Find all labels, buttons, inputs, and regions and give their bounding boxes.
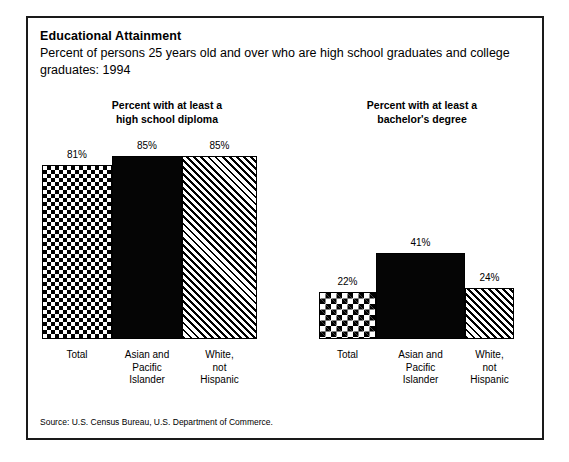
page-title: Educational Attainment (40, 28, 520, 45)
category-label-line: Hispanic (182, 374, 257, 387)
category-label-ba-white-not-hispanic: White, not Hispanic (465, 349, 514, 387)
value-label-hs-asian-pacific-islander: 85% (112, 140, 182, 152)
figure-subtitle: Percent of persons 25 years old and over… (40, 45, 520, 79)
bar-ba-total (319, 292, 376, 339)
category-label-line: Asian and (112, 349, 182, 362)
chart-panel-high-school: Percent with at least a high school dipl… (28, 98, 308, 126)
chart-title-high-school: Percent with at least a high school dipl… (52, 98, 282, 126)
category-label-line: Islander (376, 374, 465, 387)
category-label-line: not (465, 362, 514, 375)
category-label-line: Pacific (376, 362, 465, 375)
category-label-ba-asian-pacific-islander: Asian and Pacific Islander (376, 349, 465, 387)
chart-title-line-2: bachelor's degree (310, 112, 534, 126)
figure-header: Educational Attainment Percent of person… (40, 28, 520, 79)
category-label-line: White, (465, 349, 514, 362)
category-label-hs-white-not-hispanic: White, not Hispanic (182, 349, 257, 387)
bar-ba-asian-pacific-islander (376, 253, 465, 339)
category-label-hs-asian-pacific-islander: Asian and Pacific Islander (112, 349, 182, 387)
chart-title-bachelors: Percent with at least a bachelor's degre… (310, 98, 534, 126)
figure-frame: Educational Attainment Percent of person… (26, 16, 544, 440)
category-label-line: Asian and (376, 349, 465, 362)
category-label-line: White, (182, 349, 257, 362)
chart-panel-bachelors: Percent with at least a bachelor's degre… (300, 98, 546, 126)
category-label-line: Hispanic (465, 374, 514, 387)
source-note: Source: U.S. Census Bureau, U.S. Departm… (40, 417, 273, 428)
category-label-line: Total (42, 349, 112, 362)
value-label-ba-white-not-hispanic: 24% (465, 272, 514, 284)
category-label-line: Total (319, 349, 376, 362)
category-label-line: not (182, 362, 257, 375)
bar-ba-white-not-hispanic (465, 288, 514, 339)
chart-title-line-1: Percent with at least a (52, 98, 282, 112)
value-label-hs-white-not-hispanic: 85% (182, 140, 257, 152)
category-label-hs-total: Total (42, 349, 112, 362)
chart-title-line-2: high school diploma (52, 112, 282, 126)
value-label-ba-total: 22% (319, 276, 376, 288)
value-label-hs-total: 81% (42, 149, 112, 161)
plot-area: 81% 85% 85% Total Asian and Pacific Isla… (28, 18, 546, 442)
value-label-ba-asian-pacific-islander: 41% (376, 237, 465, 249)
category-label-ba-total: Total (319, 349, 376, 362)
bar-hs-white-not-hispanic (182, 156, 257, 339)
category-label-line: Islander (112, 374, 182, 387)
bar-hs-asian-pacific-islander (112, 156, 182, 339)
bar-hs-total (42, 165, 112, 339)
category-label-line: Pacific (112, 362, 182, 375)
chart-title-line-1: Percent with at least a (310, 98, 534, 112)
